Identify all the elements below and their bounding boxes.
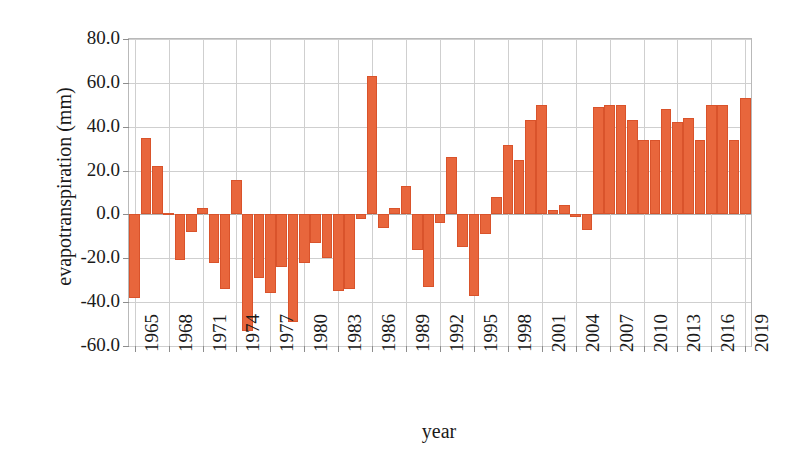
bar — [209, 214, 220, 262]
bar — [661, 109, 672, 214]
bar — [288, 214, 299, 321]
bar — [740, 98, 751, 214]
y-axis-ticks: 80.060.040.020.00.0-20.0-40.0-60.0 — [0, 0, 128, 462]
bar — [650, 140, 661, 215]
x-tick-label: 1989 — [412, 314, 434, 352]
bar — [310, 214, 321, 243]
bar — [367, 76, 378, 214]
bar — [435, 214, 446, 223]
bar — [457, 214, 468, 247]
bar — [616, 105, 627, 215]
bar — [604, 105, 615, 215]
bar — [446, 157, 457, 214]
bar — [356, 214, 367, 218]
x-tick-label: 2016 — [717, 314, 739, 352]
x-tick-label: 2001 — [548, 314, 570, 352]
x-tick-label: 1977 — [276, 314, 298, 352]
x-tick-label: 1992 — [446, 314, 468, 352]
bar — [152, 166, 163, 214]
bar — [695, 140, 706, 215]
bar — [265, 214, 276, 293]
bar — [729, 140, 740, 215]
bar — [469, 214, 480, 295]
bar — [672, 122, 683, 214]
bar — [344, 214, 355, 289]
y-tick-mark — [123, 127, 129, 128]
bar — [638, 140, 649, 215]
y-tick-label: 20.0 — [87, 159, 120, 181]
bar — [525, 120, 536, 214]
bar — [254, 214, 265, 278]
x-tick-label: 2010 — [650, 314, 672, 352]
bar — [480, 214, 491, 234]
x-tick-label: 1986 — [378, 314, 400, 352]
y-tick-label: 80.0 — [87, 27, 120, 49]
x-tick-label: 1965 — [141, 314, 163, 352]
bar — [627, 120, 638, 214]
y-tick-label: 40.0 — [87, 115, 120, 137]
plot-area — [128, 38, 752, 347]
bar — [593, 107, 604, 214]
bar — [197, 208, 208, 215]
x-tick-label: 2019 — [751, 314, 773, 352]
bar-series — [129, 39, 751, 346]
x-tick-label: 1974 — [242, 314, 264, 352]
chart-figure: evapotranspiration (mm) 80.060.040.020.0… — [0, 0, 798, 462]
x-tick-label: 2013 — [683, 314, 705, 352]
y-tick-label: -40.0 — [80, 290, 120, 312]
bar — [322, 214, 333, 258]
x-tick-label: 1968 — [175, 314, 197, 352]
bar — [186, 214, 197, 232]
bar — [559, 205, 570, 215]
bar — [683, 118, 694, 214]
bar — [220, 214, 231, 289]
bar — [141, 138, 152, 215]
bar — [401, 186, 412, 215]
bar — [423, 214, 434, 286]
bar — [276, 214, 287, 267]
bar — [491, 197, 502, 215]
bar — [717, 105, 728, 215]
y-tick-mark — [123, 302, 129, 303]
bar — [129, 214, 140, 297]
y-tick-label: -20.0 — [80, 246, 120, 268]
x-tick-label: 1971 — [209, 314, 231, 352]
y-tick-mark — [123, 214, 129, 215]
bar — [503, 145, 514, 214]
x-tick-label: 2004 — [582, 314, 604, 352]
bar — [570, 214, 581, 216]
bar — [548, 210, 559, 214]
bar — [536, 105, 547, 215]
y-tick-mark — [123, 258, 129, 259]
y-tick-label: -60.0 — [80, 334, 120, 356]
x-axis-title: year — [128, 420, 750, 443]
bar — [389, 208, 400, 215]
bar — [582, 214, 593, 229]
y-tick-mark — [123, 39, 129, 40]
bar — [299, 214, 310, 262]
x-tick-label: 1983 — [344, 314, 366, 352]
x-tick-label: 1995 — [480, 314, 502, 352]
bar — [231, 180, 242, 214]
bar — [175, 214, 186, 260]
bar — [412, 214, 423, 249]
y-tick-mark — [123, 171, 129, 172]
x-tick-label: 2007 — [616, 314, 638, 352]
bar — [333, 214, 344, 291]
x-tick-label: 1980 — [310, 314, 332, 352]
y-tick-mark — [123, 346, 129, 347]
y-tick-label: 0.0 — [96, 202, 120, 224]
x-axis-ticks: 1965196819711974197719801983198619891992… — [128, 352, 750, 414]
bar — [706, 105, 717, 215]
y-tick-label: 60.0 — [87, 71, 120, 93]
bar — [163, 213, 174, 215]
bar — [514, 160, 525, 215]
bar — [378, 214, 389, 227]
x-tick-label: 1998 — [514, 314, 536, 352]
y-tick-mark — [123, 83, 129, 84]
